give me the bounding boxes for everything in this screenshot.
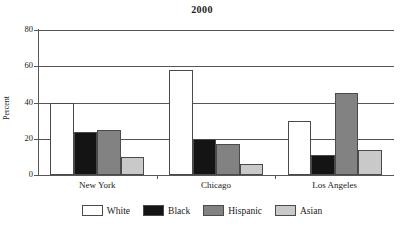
chart-legend: WhiteBlackHispanicAsian [0,205,404,216]
y-axis-tick-label: 20 [3,134,33,143]
x-axis-category-label: Chicago [157,180,276,190]
x-axis-tick-mark [157,175,158,179]
y-axis-tick-mark [34,175,38,176]
legend-entry-white[interactable]: White [82,205,130,216]
legend-swatch-hispanic [203,205,224,216]
y-axis-tick-label: 0 [3,170,33,179]
x-axis-category-label: Los Angeles [275,180,394,190]
x-axis-tick-mark [275,175,276,179]
y-axis-tick-label: 40 [3,98,33,107]
y-axis-tick-mark [34,30,38,31]
bar-white-los-angeles [288,121,312,175]
y-axis-tick-label: 80 [3,25,33,34]
gridline [38,30,394,31]
bar-asian-los-angeles [358,150,382,175]
bar-hispanic-chicago [216,144,240,175]
bar-white-new-york [50,103,74,176]
y-axis-tick-mark [34,66,38,67]
y-axis-line [38,29,39,176]
legend-entry-black[interactable]: Black [143,205,190,216]
bar-hispanic-new-york [97,130,121,175]
legend-label: Asian [300,206,322,216]
x-axis-line [38,175,394,176]
y-axis-tick-mark [34,103,38,104]
legend-swatch-black [143,205,164,216]
bar-black-new-york [74,132,98,176]
chart-title: 2000 [0,4,404,15]
legend-label: Hispanic [228,206,262,216]
bar-black-chicago [193,139,217,175]
legend-swatch-white [82,205,103,216]
y-axis-tick-mark [34,139,38,140]
legend-label: Black [168,206,190,216]
y-axis-tick-labels: 020406080 [0,0,33,232]
legend-entry-asian[interactable]: Asian [275,205,322,216]
bar-chart: 2000 Percent 020406080 WhiteBlackHispani… [0,0,404,232]
legend-label: White [107,206,130,216]
bar-black-los-angeles [311,155,335,175]
legend-entry-hispanic[interactable]: Hispanic [203,205,262,216]
plot-area [38,30,394,175]
bar-asian-chicago [240,164,264,175]
bar-hispanic-los-angeles [335,93,359,175]
bar-white-chicago [169,70,193,175]
bar-asian-new-york [121,157,145,175]
x-axis-category-label: New York [38,180,157,190]
legend-swatch-asian [275,205,296,216]
gridline [38,66,394,67]
y-axis-tick-label: 60 [3,61,33,70]
